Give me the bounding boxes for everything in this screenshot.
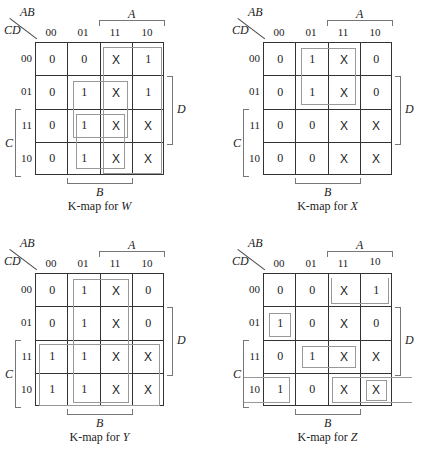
- col-label: 10: [131, 257, 163, 269]
- row-var-label: CD: [232, 23, 249, 38]
- c-label: C: [233, 136, 241, 151]
- cell: 0: [296, 109, 328, 142]
- c-bracket: [15, 109, 21, 177]
- d-bracket: [167, 76, 173, 145]
- b-label: B: [324, 416, 331, 431]
- row-label: 00: [10, 283, 32, 295]
- col-label: 01: [67, 257, 99, 269]
- c-bracket: [15, 340, 21, 408]
- col-label: 01: [295, 26, 327, 38]
- row-label: 10: [10, 383, 32, 395]
- b-bracket: [295, 409, 361, 415]
- cell: 0: [264, 274, 296, 307]
- col-label: 11: [327, 257, 359, 269]
- cell: 0: [296, 373, 328, 406]
- cell: 0: [360, 307, 392, 340]
- row-label: 01: [10, 85, 32, 97]
- col-label: 11: [327, 26, 359, 38]
- kmap-grid: 0 0 X 1 0 1 X 1 0 1 X X 0 1 X X: [35, 42, 164, 175]
- cell: 0: [296, 307, 328, 340]
- kmap-grid: 0 1 X 0 0 1 X 0 1 1 X X 1 1 X X: [35, 273, 164, 406]
- cell: 0: [264, 142, 296, 175]
- cell: X: [328, 142, 360, 175]
- col-label: 00: [263, 26, 295, 38]
- col-label: 00: [35, 257, 67, 269]
- col-label: 10: [131, 26, 163, 38]
- cell: 0: [132, 274, 164, 307]
- row-label: 01: [238, 316, 260, 328]
- kmap-w: AB CD 00 01 11 10 00 01 11 10 A D C B 0 …: [0, 0, 210, 229]
- row-label: 00: [238, 52, 260, 64]
- d-label: D: [405, 102, 414, 117]
- group-top-right: [331, 278, 389, 304]
- col-label: 11: [99, 26, 131, 38]
- c-label: C: [5, 367, 13, 382]
- a-label: A: [128, 7, 135, 22]
- d-bracket: [395, 307, 401, 376]
- b-bracket: [67, 178, 133, 184]
- kmap-z: AB CD 00 01 11 10 00 01 11 10 A D C B 0 …: [228, 231, 421, 458]
- kmap-caption: K-map for Z: [263, 430, 392, 445]
- b-bracket: [295, 178, 361, 184]
- group-c: [39, 344, 160, 406]
- col-label: 11: [99, 257, 131, 269]
- b-label: B: [96, 185, 103, 200]
- group-bc: [76, 114, 125, 169]
- cell: 0: [68, 43, 100, 76]
- col-label: 10: [359, 26, 391, 38]
- group-bcd: [302, 346, 356, 368]
- cell: 0: [264, 76, 296, 109]
- kmap-caption: K-map for Y: [35, 430, 164, 445]
- a-label: A: [128, 238, 135, 253]
- c-label: C: [233, 367, 241, 382]
- a-label: A: [356, 238, 363, 253]
- cell: 0: [296, 274, 328, 307]
- row-var-label: CD: [4, 254, 21, 269]
- cell: X: [328, 109, 360, 142]
- cell: 0: [264, 109, 296, 142]
- cell: 0: [360, 43, 392, 76]
- cell: X: [360, 109, 392, 142]
- col-var-label: AB: [20, 5, 35, 20]
- row-var-label: CD: [232, 254, 249, 269]
- row-var-label: CD: [4, 23, 21, 38]
- row-label: 11: [238, 350, 260, 362]
- d-label: D: [177, 102, 186, 117]
- row-label: 11: [238, 119, 260, 131]
- d-bracket: [395, 76, 401, 145]
- kmap-caption: K-map for W: [35, 199, 164, 214]
- cell: 0: [36, 307, 68, 340]
- cell: X: [328, 307, 360, 340]
- group-single-01: [269, 313, 291, 337]
- col-var-label: AB: [248, 5, 263, 20]
- b-bracket: [67, 409, 133, 415]
- cell: X: [360, 340, 392, 373]
- kmap-y: AB CD 00 01 11 10 00 01 11 10 A D C B 0 …: [0, 231, 210, 458]
- a-label: A: [356, 7, 363, 22]
- kmap-x: AB CD 00 01 11 10 00 01 11 10 A D C B 0 …: [228, 0, 421, 229]
- group-bc-prime: [301, 48, 356, 105]
- cell: X: [360, 142, 392, 175]
- col-label: 01: [67, 26, 99, 38]
- cell: 0: [36, 43, 68, 76]
- row-label: 10: [10, 152, 32, 164]
- col-var-label: AB: [248, 236, 263, 251]
- b-label: B: [324, 185, 331, 200]
- col-label: 00: [35, 26, 67, 38]
- c-bracket: [243, 109, 249, 177]
- cell: 0: [36, 76, 68, 109]
- c-label: C: [5, 136, 13, 151]
- cell: 0: [132, 307, 164, 340]
- d-label: D: [177, 333, 186, 348]
- group-wrap-left: [244, 377, 290, 403]
- kmap-caption: K-map for X: [263, 199, 392, 214]
- group-single-corner: [366, 380, 387, 401]
- col-label: 00: [263, 257, 295, 269]
- row-label: 11: [10, 350, 32, 362]
- cell: 0: [360, 76, 392, 109]
- row-label: 01: [238, 85, 260, 97]
- kmap-grid: 0 0 X 1 1 0 X 0 0 1 X X 1 0 X X: [263, 273, 392, 406]
- col-var-label: AB: [20, 236, 35, 251]
- d-label: D: [405, 333, 414, 348]
- cell: 0: [36, 142, 68, 175]
